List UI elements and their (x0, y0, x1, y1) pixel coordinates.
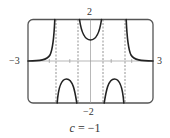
y-max-label: 2 (87, 7, 92, 17)
caption-value: = −1 (75, 121, 101, 135)
chart-caption: c = −1 (0, 121, 170, 136)
y-min-label: −2 (83, 107, 94, 117)
plot-area (0, 0, 170, 138)
x-max-label: 3 (157, 56, 162, 66)
x-min-label: −3 (9, 56, 20, 66)
